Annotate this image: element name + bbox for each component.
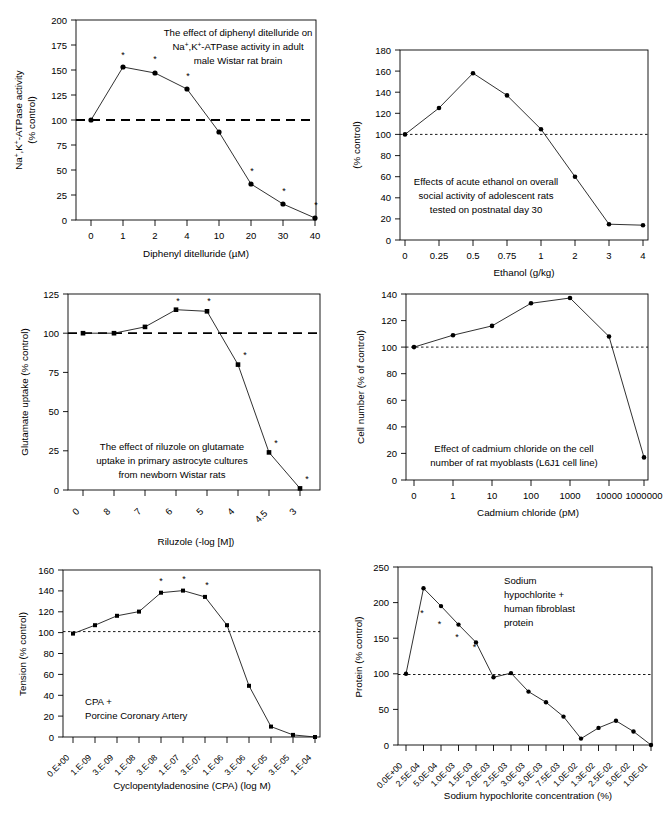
x-tick-label: 3.E-07 bbox=[178, 752, 203, 777]
y-tick-label: 60 bbox=[43, 669, 54, 680]
svg-text:Na+,K+-ATPase activity: Na+,K+-ATPase activity bbox=[13, 70, 25, 170]
y-tick-label: 80 bbox=[43, 648, 54, 659]
x-tick-label: 4 bbox=[184, 230, 189, 241]
y-tick-label: 0 bbox=[392, 475, 397, 486]
x-tick-label: 3 bbox=[287, 506, 299, 518]
y-tick-label: 75 bbox=[56, 140, 67, 151]
x-tick-label: 1.E-07 bbox=[156, 752, 181, 777]
annotation-line: Effects of acute ethanol on overall bbox=[414, 176, 558, 187]
x-tick-label: 0.25 bbox=[430, 250, 449, 261]
svg-text:*: * bbox=[186, 71, 190, 81]
svg-text:*: * bbox=[243, 350, 247, 360]
x-tick-label: 6 bbox=[163, 506, 175, 518]
svg-text:*: * bbox=[182, 574, 186, 584]
y-tick-label: 25 bbox=[56, 190, 67, 201]
y-tick-label: 50 bbox=[48, 406, 59, 417]
panel-3-x-axis: 0 8 7 6 5 4 4.5 3 bbox=[70, 490, 300, 525]
y-tick-label: 120 bbox=[38, 606, 54, 617]
y-tick-label: 150 bbox=[51, 65, 67, 76]
y-tick-label: 140 bbox=[38, 585, 54, 596]
x-tick-label: 0 bbox=[402, 250, 407, 261]
panel-2-annotation: Effects of acute ethanol on overall soci… bbox=[414, 176, 558, 215]
panel-4-annotation: Effect of cadmium chloride on the cell n… bbox=[430, 443, 597, 468]
panel-1-plot-area: 200 175 150 125 100 75 50 25 0 bbox=[13, 15, 321, 260]
svg-text:*: * bbox=[159, 576, 163, 586]
data-series-line bbox=[414, 298, 644, 457]
y-axis-title: Glutamate uptake (% control) bbox=[19, 328, 30, 455]
svg-text:*: * bbox=[420, 608, 424, 618]
x-tick-label: 1 bbox=[538, 250, 543, 261]
x-tick-label: 5 bbox=[194, 506, 206, 518]
y-tick-label: 140 bbox=[375, 87, 391, 98]
y-tick-label: 0 bbox=[384, 740, 389, 751]
annotation-line: tested on postnatal day 30 bbox=[430, 204, 543, 215]
x-axis-title: Cyclopentyladenosine (CPA) (log M) bbox=[113, 780, 271, 791]
chart-panel-5: 160 140 120 100 80 60 40 20 0 bbox=[0, 562, 336, 813]
panel-1-annotation: The effect of diphenyl ditelluride on Na… bbox=[164, 27, 313, 66]
svg-text:*: * bbox=[473, 642, 477, 652]
y-tick-label: 0 bbox=[386, 235, 391, 246]
panel-3-y-axis: 125 100 75 50 25 0 bbox=[43, 289, 68, 496]
x-tick-label: 4.5 bbox=[252, 508, 269, 525]
panel-1-svg: 200 175 150 125 100 75 50 25 0 bbox=[0, 0, 336, 280]
x-axis-title: Ethanol (g/kg) bbox=[494, 267, 555, 278]
x-tick-label: 0 bbox=[411, 490, 416, 501]
y-tick-label: 50 bbox=[378, 704, 389, 715]
y-tick-label: 0 bbox=[62, 215, 67, 226]
y-tick-label: 100 bbox=[381, 342, 397, 353]
y-tick-label: 120 bbox=[381, 315, 397, 326]
x-tick-label: 3.E-05 bbox=[266, 752, 291, 777]
x-tick-label: 20 bbox=[246, 230, 257, 241]
annotation-line: The effect of riluzole on glutamate bbox=[100, 441, 244, 452]
svg-text:*: * bbox=[314, 200, 318, 210]
x-tick-label: 30 bbox=[278, 230, 289, 241]
chart-panel-6: 250 200 150 100 50 0 bbox=[336, 562, 672, 813]
y-axis-title: Na+,K+-ATPase activity (% control) bbox=[13, 70, 38, 170]
y-tick-label: 40 bbox=[386, 421, 397, 432]
svg-text:*: * bbox=[176, 296, 180, 306]
panel-1-x-axis: 0 1 2 4 10 20 30 40 bbox=[88, 220, 320, 241]
y-axis-title: Tension (% control) bbox=[17, 612, 28, 696]
x-tick-label: 1.E-08 bbox=[112, 752, 137, 777]
annotation-line: protein bbox=[504, 617, 533, 628]
svg-text:*: * bbox=[305, 474, 309, 484]
x-tick-label: 3.E-09 bbox=[90, 752, 115, 777]
chart-panel-4: 140 120 100 80 60 40 20 0 bbox=[336, 280, 672, 562]
x-tick-label: 1000 bbox=[559, 490, 580, 501]
x-tick-label: 1 bbox=[120, 230, 125, 241]
svg-text:*: * bbox=[282, 186, 286, 196]
panel-6-x-axis: 0.0E+00 2.5E-04 5.0E-04 1.0E-03 1.5E-03 … bbox=[375, 745, 651, 790]
y-axis-title-line2: (% control) bbox=[26, 96, 37, 143]
panel-2-plot-area: 180 160 140 120 100 80 60 40 20 0 bbox=[351, 45, 648, 279]
y-tick-label: 60 bbox=[386, 395, 397, 406]
y-tick-label: 160 bbox=[375, 66, 391, 77]
y-tick-label: 50 bbox=[56, 165, 67, 176]
panel-5-plot-area: 160 140 120 100 80 60 40 20 0 bbox=[17, 565, 320, 792]
annotation-line: Effect of cadmium chloride on the cell bbox=[434, 443, 593, 454]
significance-markers: * * * bbox=[159, 574, 209, 590]
svg-text:*: * bbox=[207, 296, 211, 306]
y-tick-label: 100 bbox=[43, 328, 59, 339]
y-tick-label: 175 bbox=[51, 40, 67, 51]
annotation-line: The effect of diphenyl ditelluride on bbox=[164, 27, 313, 38]
y-axis-title: Cell number (% of control) bbox=[355, 330, 366, 444]
x-tick-label: 100 bbox=[523, 490, 539, 501]
panel-6-y-axis: 250 200 150 100 50 0 bbox=[373, 562, 398, 751]
annotation-line: Sodium bbox=[504, 575, 537, 586]
x-tick-label: 1 bbox=[450, 490, 455, 501]
x-tick-label: 0.5 bbox=[466, 250, 479, 261]
data-series-line bbox=[405, 73, 643, 225]
svg-text:*: * bbox=[153, 54, 157, 64]
panel-3-svg: 125 100 75 50 25 0 0 8 bbox=[0, 280, 336, 562]
panel-6-plot-area: 250 200 150 100 50 0 bbox=[353, 562, 653, 801]
x-tick-label: 1.E-05 bbox=[244, 752, 269, 777]
x-tick-label: 1000000 bbox=[626, 490, 663, 501]
x-tick-label: 10000 bbox=[596, 490, 622, 501]
panel-4-y-axis: 140 120 100 80 60 40 20 0 bbox=[381, 289, 406, 486]
y-tick-label: 40 bbox=[380, 192, 391, 203]
x-tick-label: 4 bbox=[640, 250, 645, 261]
panel-5-y-axis: 160 140 120 100 80 60 40 20 0 bbox=[38, 565, 63, 743]
x-tick-label: 2 bbox=[572, 250, 577, 261]
annotation-line: human fibroblast bbox=[504, 603, 575, 614]
figure-grid: 200 175 150 125 100 75 50 25 0 bbox=[0, 0, 672, 813]
